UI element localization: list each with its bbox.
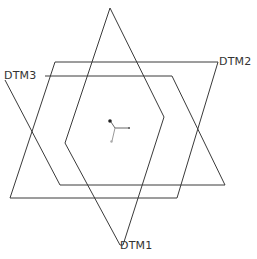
- label-dtm1[interactable]: DTM1: [120, 240, 152, 251]
- plane-dtm2[interactable]: [10, 62, 218, 198]
- coordinate-system-icon: [108, 119, 130, 143]
- label-dtm3[interactable]: DTM3: [4, 70, 36, 81]
- label-dtm2[interactable]: DTM2: [219, 56, 251, 67]
- plane-dtm3[interactable]: [5, 76, 225, 185]
- datum-planes-canvas: [0, 0, 257, 259]
